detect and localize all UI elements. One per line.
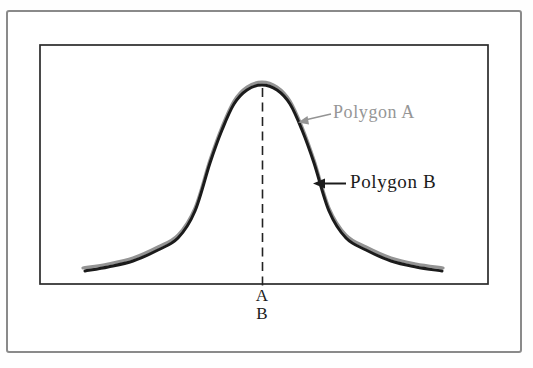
- polygon-b-label: Polygon B: [350, 171, 436, 193]
- center-label-a: A: [256, 287, 268, 305]
- polygon-a-label: Polygon A: [333, 102, 415, 123]
- center-label-b: B: [256, 305, 267, 323]
- frequency-polygon-figure: Polygon A Polygon B A B: [0, 0, 533, 368]
